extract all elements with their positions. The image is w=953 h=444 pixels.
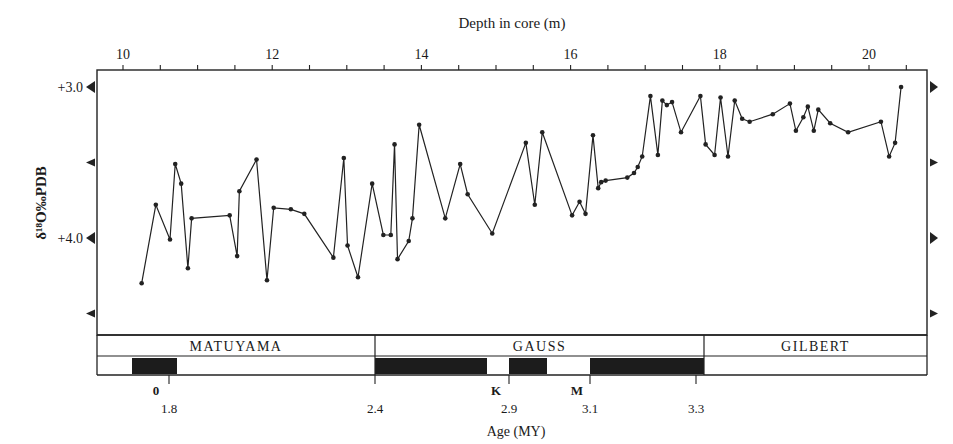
data-point — [648, 94, 653, 99]
right-axis-marker-icon — [930, 81, 938, 93]
y-tick-label: +4.0 — [58, 231, 83, 246]
data-series-line — [142, 87, 901, 283]
data-point — [389, 233, 394, 238]
right-axis-marker-icon — [930, 232, 938, 244]
epoch-label: GILBERT — [781, 339, 850, 354]
top-axis-title: Depth in core (m) — [458, 15, 565, 32]
data-point — [893, 141, 898, 146]
data-point — [599, 180, 604, 185]
left-axis-marker-icon — [86, 310, 95, 318]
age-tick-label: 1.8 — [161, 401, 177, 416]
epoch-label: MATUYAMA — [190, 339, 283, 354]
data-point — [395, 257, 400, 262]
data-point — [660, 98, 665, 103]
data-point — [154, 202, 159, 207]
data-point — [726, 154, 731, 159]
data-point — [591, 133, 596, 138]
normal-polarity-block — [375, 358, 487, 374]
data-point — [179, 181, 184, 186]
top-axis-tick-label: 16 — [564, 47, 578, 62]
y-axis-markers: +3.0+4.0 — [58, 80, 938, 318]
data-point — [679, 130, 684, 135]
data-point — [237, 189, 242, 194]
age-axis-title: Age (MY) — [487, 424, 546, 440]
data-point — [811, 128, 816, 133]
data-point — [770, 112, 775, 117]
left-axis-marker-icon — [86, 159, 95, 167]
normal-polarity-block — [132, 358, 177, 374]
data-point — [235, 254, 240, 259]
top-axis-tick-label: 14 — [414, 47, 428, 62]
data-point — [596, 186, 601, 191]
left-axis-marker-icon — [86, 81, 95, 93]
age-tick-label: 3.3 — [688, 401, 704, 416]
left-axis-marker-icon — [86, 232, 95, 244]
normal-polarity-block — [509, 358, 547, 374]
data-point — [887, 154, 892, 159]
data-point — [632, 171, 637, 176]
data-point — [443, 216, 448, 221]
data-point — [583, 212, 588, 217]
data-point — [173, 162, 178, 167]
magnetostratigraphy-bar: MATUYAMAGAUSSGILBERT01.82.4K2.9M3.13.3 — [97, 335, 927, 416]
data-point — [271, 206, 276, 211]
data-point — [640, 154, 645, 159]
data-point — [370, 181, 375, 186]
data-point — [788, 101, 793, 106]
data-point — [656, 153, 661, 158]
data-point — [846, 130, 851, 135]
right-axis-marker-icon — [930, 159, 938, 167]
event-label: M — [571, 383, 583, 398]
data-point — [703, 142, 708, 147]
data-point — [168, 237, 173, 242]
data-point — [465, 192, 470, 197]
data-point — [392, 142, 397, 147]
data-point — [712, 153, 717, 158]
data-point — [302, 212, 307, 217]
data-point — [577, 199, 582, 204]
event-label: K — [491, 383, 502, 398]
age-tick-label: 2.9 — [501, 401, 517, 416]
data-point — [540, 130, 545, 135]
data-point — [698, 94, 703, 99]
top-axis-tick-label: 12 — [265, 47, 279, 62]
data-point — [265, 278, 270, 283]
right-axis-marker-icon — [930, 310, 938, 318]
normal-polarity-block — [590, 358, 704, 374]
top-axis-tick-label: 18 — [713, 47, 727, 62]
data-point — [718, 95, 723, 100]
data-point — [532, 202, 537, 207]
data-point — [828, 121, 833, 126]
y-tick-label: +3.0 — [58, 80, 83, 95]
data-point — [806, 104, 811, 109]
data-point — [899, 85, 904, 90]
data-point — [410, 216, 415, 221]
data-point — [570, 213, 575, 218]
data-point — [490, 231, 495, 236]
data-point — [801, 115, 806, 120]
data-point — [189, 216, 194, 221]
data-point — [139, 281, 144, 286]
data-point — [816, 107, 821, 112]
data-point — [665, 103, 670, 108]
data-point — [342, 156, 347, 161]
data-point — [345, 243, 350, 248]
data-point — [635, 165, 640, 170]
top-axis-tick-label: 20 — [862, 47, 876, 62]
event-label: 0 — [153, 383, 160, 398]
data-point — [732, 98, 737, 103]
data-point — [603, 178, 608, 183]
data-point — [625, 175, 630, 180]
top-depth-axis: 101214161820 — [116, 47, 906, 70]
data-point — [356, 275, 361, 280]
data-point — [740, 116, 745, 121]
data-point — [254, 157, 259, 162]
epoch-label: GAUSS — [513, 339, 566, 354]
oxygen-isotope-chart: 101214161820 Depth in core (m) +3.0+4.0 … — [0, 0, 953, 444]
data-point — [417, 122, 422, 127]
data-point — [406, 239, 411, 244]
data-point — [524, 141, 529, 146]
data-point — [747, 119, 752, 124]
age-tick-label: 3.1 — [582, 401, 598, 416]
data-point — [227, 213, 232, 218]
